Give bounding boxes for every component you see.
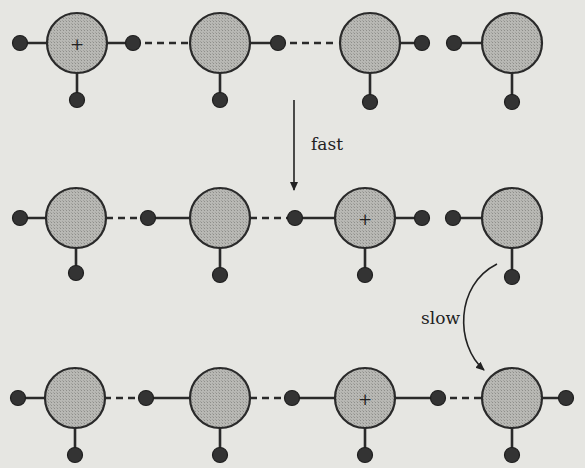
hydrogen-atom <box>139 391 154 406</box>
positive-charge-icon: + <box>358 389 372 409</box>
hydrogen-atom <box>68 448 83 463</box>
oxygen-atom <box>482 13 542 73</box>
hydrogen-atom <box>505 448 520 463</box>
hydrogen-atom <box>288 211 303 226</box>
slow-label: slow <box>421 308 460 328</box>
hydrogen-atom <box>13 36 28 51</box>
hydrogen-atom <box>213 93 228 108</box>
oxygen-atom <box>482 188 542 248</box>
proton-hopping-diagram: +++ fast slow <box>0 0 585 468</box>
hydrogen-atom <box>141 211 156 226</box>
hydrogen-atom <box>69 266 84 281</box>
oxygen-atom: + <box>47 13 107 73</box>
hydrogen-atom <box>271 36 286 51</box>
hydrogen-atom <box>213 448 228 463</box>
hydrogen-atom <box>70 93 85 108</box>
oxygen-atom: + <box>335 368 395 428</box>
oxygen-atom <box>190 188 250 248</box>
hydrogen-atom <box>358 448 373 463</box>
hydrogen-atom <box>505 270 520 285</box>
oxygen-atom <box>482 368 542 428</box>
hydrogen-atom <box>559 391 574 406</box>
oxygen-atom <box>190 368 250 428</box>
oxygen-atom <box>190 13 250 73</box>
fast-arrow: fast <box>294 100 343 190</box>
hydrogen-atom <box>431 391 446 406</box>
hydrogen-atom <box>358 268 373 283</box>
hydrogen-atom <box>415 36 430 51</box>
hydrogen-atom <box>285 391 300 406</box>
oxygen-atom: + <box>335 188 395 248</box>
hydrogen-atom <box>13 211 28 226</box>
hydrogen-atom <box>447 36 462 51</box>
hydrogen-atom <box>415 211 430 226</box>
positive-charge-icon: + <box>358 209 372 229</box>
oxygen-atom <box>46 188 106 248</box>
positive-charge-icon: + <box>70 34 84 54</box>
oxygen-atom <box>45 368 105 428</box>
hydrogen-atom <box>363 95 378 110</box>
hydrogen-atom <box>126 36 141 51</box>
hydrogen-atom <box>213 268 228 283</box>
fast-label: fast <box>311 134 343 154</box>
slow-arrow: slow <box>421 264 497 370</box>
hydrogen-atom <box>11 391 26 406</box>
oxygen-atom <box>340 13 400 73</box>
hydrogen-atom <box>505 95 520 110</box>
hydrogen-atom <box>446 211 461 226</box>
